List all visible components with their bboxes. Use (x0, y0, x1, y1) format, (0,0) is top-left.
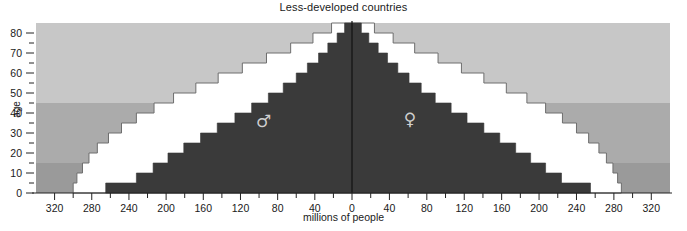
y-tick-label: 10 (10, 167, 22, 179)
y-tick-label: 20 (10, 147, 22, 159)
x-axis-label: millions of people (0, 211, 687, 223)
y-tick-label: 0 (16, 187, 22, 199)
plot-area: 3202802402001601208040040801201602002402… (0, 0, 687, 231)
female-symbol-icon: ♀ (404, 109, 416, 129)
y-axis-label: age (11, 90, 22, 130)
y-tick-label: 70 (10, 47, 22, 59)
population-pyramid-figure: Less-developed countries 320280240200160… (0, 0, 687, 231)
pyramid-svg: 3202802402001601208040040801201602002402… (0, 0, 687, 231)
y-tick-label: 60 (10, 67, 22, 79)
y-tick-label: 80 (10, 27, 22, 39)
male-symbol-icon: ♂ (256, 111, 271, 131)
